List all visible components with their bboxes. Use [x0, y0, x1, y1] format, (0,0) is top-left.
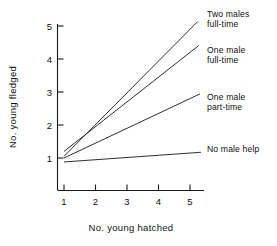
y-tick-label-4: 4	[47, 54, 52, 65]
y-tick-label-1: 1	[47, 153, 52, 164]
line-chart: 5 4 3 2 1 1 2 3 4 5 No. young hatched No…	[0, 0, 277, 246]
series-label-line-1: One male	[207, 45, 246, 55]
y-axis-ticks	[58, 26, 64, 158]
chart-figure: 5 4 3 2 1 1 2 3 4 5 No. young hatched No…	[0, 0, 277, 246]
series-line-one-male-full-time	[64, 46, 199, 152]
x-axis-title: No. young hatched	[89, 222, 174, 233]
y-tick-label-5: 5	[47, 21, 52, 32]
x-axis-ticks	[64, 185, 190, 191]
series-label-no-male-help: No male help	[207, 144, 260, 154]
series-lines	[64, 21, 201, 161]
series-line-no-male-help	[64, 152, 201, 162]
series-label-line-2: full-time	[207, 55, 239, 65]
series-line-one-male-part-time	[64, 94, 200, 158]
x-tick-label-2: 2	[93, 196, 98, 207]
x-tick-label-1: 1	[61, 196, 66, 207]
series-label-line-1: Two males	[207, 9, 249, 19]
series-label-line-1: No male help	[207, 144, 260, 154]
y-tick-label-2: 2	[47, 120, 52, 131]
series-label-one-male-part-time: One male part-time	[207, 92, 246, 112]
series-label-line-2: part-time	[207, 102, 242, 112]
series-label-line-2: full-time	[207, 19, 239, 29]
y-axis-title: No. young fledged	[7, 66, 18, 148]
y-tick-label-3: 3	[47, 87, 52, 98]
series-label-line-1: One male	[207, 92, 246, 102]
x-tick-label-3: 3	[124, 196, 129, 207]
x-tick-label-4: 4	[156, 196, 161, 207]
series-label-one-male-full-time: One male full-time	[207, 45, 246, 65]
x-tick-label-5: 5	[187, 196, 192, 207]
series-label-two-males-full-time: Two males full-time	[207, 9, 249, 29]
